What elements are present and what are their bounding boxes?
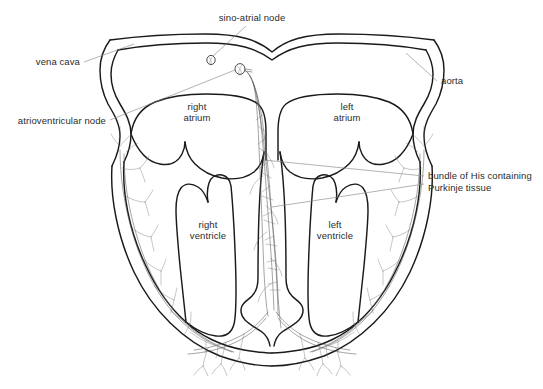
label-right-ventricle-line2: ventricle xyxy=(177,230,239,242)
label-right-atrium-line2: atrium xyxy=(167,112,227,124)
label-left-atrium-line2: atrium xyxy=(317,112,377,124)
label-left-ventricle-line1: left xyxy=(304,219,366,231)
label-atrioventricular-node: atrioventricular node xyxy=(8,115,106,127)
label-left-ventricle-line2: ventricle xyxy=(304,230,366,242)
label-purkinje-tissue-line2: Purkinje tissue xyxy=(428,182,543,194)
atrioventricular-node-marker xyxy=(235,64,252,75)
label-aorta: aorta xyxy=(441,75,491,87)
heart-outline xyxy=(100,34,444,366)
sino-atrial-node-marker xyxy=(207,55,215,65)
leader-sino-atrial-node xyxy=(213,26,246,56)
label-right-ventricle-line1: right xyxy=(177,219,239,231)
leader-purkinje-tissue xyxy=(272,184,424,207)
leader-vena-cava xyxy=(84,44,134,62)
label-left-atrium-line1: left xyxy=(317,101,377,113)
heart-diagram-svg: .o{fill:none;stroke:#1a1a1a;stroke-width… xyxy=(0,0,543,389)
label-sino-atrial-node: sino-atrial node xyxy=(202,12,302,24)
label-vena-cava: vena cava xyxy=(14,56,80,68)
label-right-atrium-line1: right xyxy=(167,101,227,113)
label-bundle-of-his-line1: bundle of His containing xyxy=(428,170,543,182)
leader-bundle-of-his-septum xyxy=(264,160,424,176)
heart-conduction-diagram: .o{fill:none;stroke:#1a1a1a;stroke-width… xyxy=(0,0,543,389)
purkinje-fiber-network xyxy=(111,70,433,376)
